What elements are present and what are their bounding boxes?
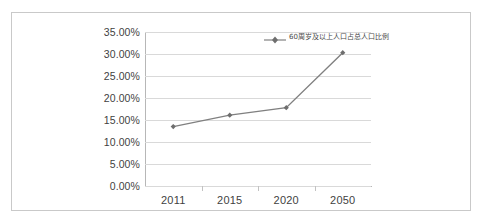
y-axis-tick-label: 30.00% xyxy=(80,49,140,60)
series-line xyxy=(173,53,343,127)
x-axis-tick-mark xyxy=(202,186,203,191)
y-axis-tick-label: 15.00% xyxy=(80,115,140,126)
y-axis-tick-labels: 35.00%30.00%25.00%20.00%15.00%10.00%5.00… xyxy=(74,32,140,186)
y-axis-tick-label: 20.00% xyxy=(80,93,140,104)
y-axis-tick-label: 25.00% xyxy=(80,71,140,82)
chart-legend: 60周岁及以上人口占总人口比例 xyxy=(264,29,389,43)
x-axis-tick-mark xyxy=(258,186,259,191)
legend-marker-icon xyxy=(264,31,286,41)
x-axis-tick-label: 2011 xyxy=(143,195,203,206)
data-point-marker xyxy=(227,113,232,118)
x-axis-tick-label: 2050 xyxy=(313,195,373,206)
line-series xyxy=(145,32,371,186)
x-axis-tick-mark xyxy=(315,186,316,191)
y-axis-tick-label: 10.00% xyxy=(80,137,140,148)
x-axis-tick-label: 2015 xyxy=(200,195,260,206)
plot-area xyxy=(145,32,371,186)
y-axis-tick-label: 5.00% xyxy=(80,159,140,170)
y-axis-tick-label: 0.00% xyxy=(80,181,140,192)
data-point-marker xyxy=(171,124,176,129)
x-axis-tick-labels: 2011201520202050 xyxy=(145,195,372,211)
chart-container: 35.00%30.00%25.00%20.00%15.00%10.00%5.00… xyxy=(11,12,471,211)
x-axis-tick-label: 2020 xyxy=(256,195,316,206)
legend-label: 60周岁及以上人口占总人口比例 xyxy=(289,31,389,41)
y-axis-tick-label: 35.00% xyxy=(80,27,140,38)
